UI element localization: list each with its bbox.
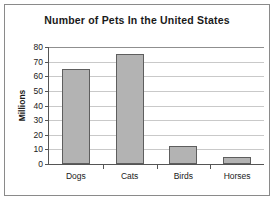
x-axis-tick <box>103 164 104 169</box>
bar <box>169 146 197 164</box>
y-axis-tick <box>45 149 49 150</box>
x-axis-tick-label: Birds <box>174 171 193 181</box>
chart-frame: Number of Pets In the United States Mill… <box>4 4 270 196</box>
y-axis-tick <box>45 164 49 165</box>
y-axis-tick <box>45 135 49 136</box>
bar <box>116 54 144 164</box>
gridline <box>49 47 264 48</box>
y-axis-tick-label: 0 <box>38 159 43 169</box>
y-axis-tick <box>45 91 49 92</box>
y-axis-tick-label: 30 <box>34 115 43 125</box>
y-axis-tick <box>45 120 49 121</box>
x-axis-tick-label: Dogs <box>66 171 86 181</box>
bar <box>62 69 90 164</box>
y-axis-tick <box>45 47 49 48</box>
y-axis-tick-label: 40 <box>34 101 43 111</box>
x-axis-tick-label: Horses <box>224 171 251 181</box>
y-axis-tick-label: 60 <box>34 71 43 81</box>
y-axis-tick-label: 20 <box>34 130 43 140</box>
y-axis-title: Millions <box>17 47 29 164</box>
chart-title: Number of Pets In the United States <box>5 14 269 26</box>
y-axis-tick <box>45 76 49 77</box>
plot-area: 80706050403020100 DogsCatsBirdsHorses <box>48 47 264 165</box>
y-axis-tick-label: 70 <box>34 57 43 67</box>
y-axis-tick-label: 50 <box>34 86 43 96</box>
x-axis-tick-label: Cats <box>121 171 138 181</box>
gridline <box>49 62 264 63</box>
y-axis-tick <box>45 106 49 107</box>
y-axis-tick-label: 80 <box>34 42 43 52</box>
bar <box>223 157 251 164</box>
y-axis-tick <box>45 62 49 63</box>
x-axis-tick <box>157 164 158 169</box>
y-axis-tick-label: 10 <box>34 144 43 154</box>
x-axis-tick <box>210 164 211 169</box>
